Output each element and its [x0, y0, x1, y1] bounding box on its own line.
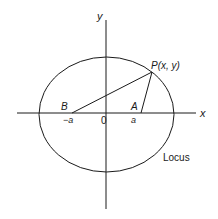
x-axis-label: x: [199, 107, 206, 119]
segment-ap: [141, 72, 152, 113]
tick-a-label: a: [131, 115, 136, 125]
ellipse-locus-diagram: y x P(x, y) B A −a 0 a Locus: [0, 0, 218, 219]
origin-label: 0: [101, 115, 107, 126]
segment-bp: [72, 72, 152, 113]
point-b-label: B: [61, 101, 68, 112]
locus-label: Locus: [163, 152, 190, 163]
point-p-label: P(x, y): [151, 60, 180, 71]
point-a-label: A: [130, 101, 138, 112]
tick-neg-a-label: −a: [63, 115, 73, 125]
y-axis-label: y: [96, 10, 104, 22]
